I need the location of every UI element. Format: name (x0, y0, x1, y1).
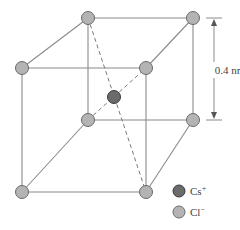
legend-cl-label: Cl− (190, 205, 205, 218)
cl-atom-top-front-right (140, 62, 153, 75)
cl-atom-bottom-back-left (82, 114, 95, 127)
arrow-down-icon (211, 112, 217, 119)
edge-depth-bottom-left (22, 120, 88, 192)
diagonal-tbl-to-bfr (88, 18, 146, 192)
cl-atom-bottom-front-left (16, 186, 29, 199)
edge-depth-top-right (146, 18, 193, 68)
edge-depth-bottom-right (146, 120, 193, 192)
legend-cs-label: Cs+ (190, 184, 207, 197)
legend-item-cl: Cl− (173, 205, 205, 218)
dimension-label: 0.4 nm (215, 64, 240, 76)
cl-atom-bottom-back-right (187, 114, 200, 127)
legend-cl-charge: − (200, 205, 205, 214)
body-diagonals (88, 18, 146, 192)
dimension-marker: 0.4 nm (206, 18, 240, 120)
cscl-unit-cell-diagram: 0.4 nm Cs+ Cl− (0, 0, 240, 230)
cl-atom-top-front-left (16, 62, 29, 75)
legend-item-cs: Cs+ (173, 184, 207, 197)
cl-atom-top-back-left (82, 12, 95, 25)
legend-cs-charge: + (202, 184, 207, 193)
edge-depth-top-left (22, 18, 88, 68)
legend: Cs+ Cl− (173, 184, 207, 218)
cs-atom-center (108, 91, 121, 104)
chloride-atoms-front (16, 62, 153, 199)
cube-edges (22, 18, 193, 192)
legend-cs-swatch (173, 185, 185, 197)
cl-atom-bottom-front-right (140, 186, 153, 199)
legend-cl-swatch (173, 206, 185, 218)
cl-atom-top-back-right (187, 12, 200, 25)
arrow-up-icon (211, 19, 217, 26)
